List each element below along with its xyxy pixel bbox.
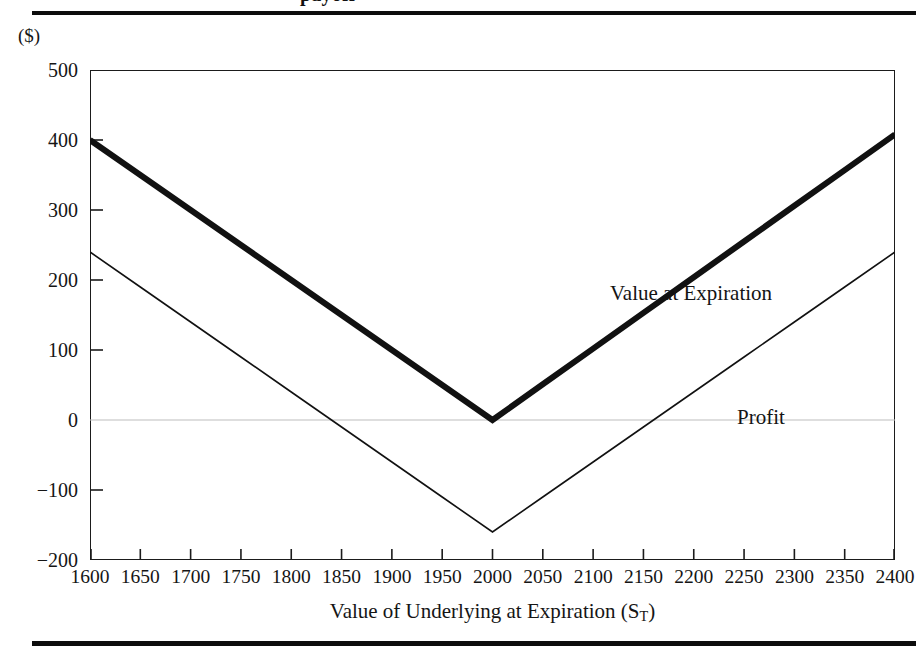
y-tick-label: 300	[6, 200, 78, 220]
x-axis-title-main: Value of Underlying at Expiration (S	[330, 599, 640, 623]
y-axis-units-label: ($)	[18, 26, 40, 45]
x-tick-label: 2200	[674, 567, 713, 587]
y-tick-label: 400	[6, 130, 78, 150]
x-tick-label: 1650	[121, 567, 160, 587]
x-tick-label: 1950	[423, 567, 462, 587]
annotation-profit: Profit	[737, 407, 785, 428]
top-rule	[32, 11, 916, 15]
x-tick-label: 1800	[272, 567, 311, 587]
x-axis-title: Value of Underlying at Expiration (ST)	[90, 601, 895, 623]
plot-canvas	[90, 70, 895, 560]
truncated-caption-text: payoff	[300, 0, 356, 6]
y-tick-label: 0	[6, 410, 78, 430]
x-tick-label: 1850	[322, 567, 361, 587]
x-tick-label: 2150	[624, 567, 663, 587]
x-tick-mark-group	[91, 549, 894, 560]
x-tick-label: 2300	[775, 567, 814, 587]
series-line-group	[90, 134, 895, 532]
x-tick-label: 2100	[574, 567, 613, 587]
x-tick-label: 1700	[171, 567, 210, 587]
bottom-rule	[32, 641, 916, 646]
x-tick-label: 2250	[725, 567, 764, 587]
y-axis-tick-labels: 5004003002001000−100−200	[0, 70, 78, 560]
x-axis-title-close: )	[648, 599, 655, 623]
x-tick-label: 2000	[473, 567, 512, 587]
plot-area: Value at Expiration Profit	[90, 70, 895, 560]
y-tick-label: 500	[6, 60, 78, 80]
x-tick-label: 1900	[372, 567, 411, 587]
x-axis-tick-labels: 1600165017001750180018501900195020002050…	[90, 567, 895, 593]
x-tick-label: 2050	[523, 567, 562, 587]
series-line-value-at-expiration	[90, 134, 895, 420]
annotation-value-at-expiration: Value at Expiration	[610, 283, 772, 304]
y-tick-label: 100	[6, 340, 78, 360]
x-tick-label: 2400	[876, 567, 915, 587]
x-tick-label: 1750	[221, 567, 260, 587]
figure-root: payoff ($) 5004003002001000−100−200 Valu…	[0, 0, 918, 654]
truncated-caption-clip: payoff	[0, 0, 918, 11]
x-tick-label: 1600	[71, 567, 110, 587]
x-axis-title-subscript: T	[639, 608, 648, 624]
y-tick-label: −200	[6, 550, 78, 570]
y-tick-mark-group	[90, 140, 103, 490]
x-tick-label: 2350	[825, 567, 864, 587]
series-line-profit	[90, 252, 895, 532]
y-tick-label: 200	[6, 270, 78, 290]
y-tick-label: −100	[6, 480, 78, 500]
